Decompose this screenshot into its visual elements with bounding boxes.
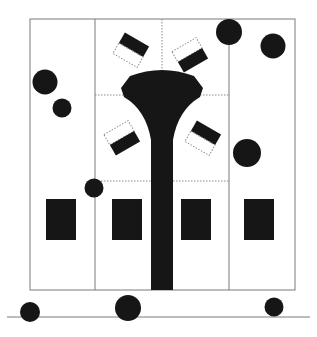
tilted-marker-top-right [172,38,208,73]
tilted-marker-mid-left [104,121,140,156]
circle-left-large [33,70,58,95]
block-lane-2 [112,199,142,240]
diagram-canvas [0,0,317,337]
circle-right-mid [233,139,261,167]
baseline-circle-left [20,302,40,322]
baseline-circle-right [265,298,284,317]
y-shaped-runway [121,70,203,290]
tilted-marker-mid-right [185,121,221,156]
circle-top-right [261,34,286,59]
block-lane-4 [244,199,274,240]
baseline-circle-center [115,295,141,321]
circle-top-right-edge [216,19,242,45]
circle-left-small [53,99,72,118]
block-lane-3 [181,199,211,240]
circle-left-divider [85,179,104,198]
tilted-marker-top-left [113,33,149,68]
block-lane-1 [46,199,76,240]
